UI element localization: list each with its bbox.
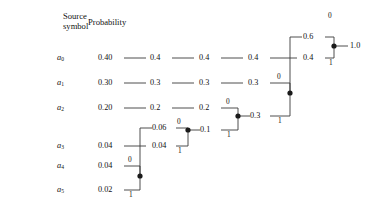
reduction1-value-0: 0.4 (150, 54, 160, 62)
bit-06-zero: 0 (328, 12, 332, 19)
reduction3-value-1: 0.3 (248, 79, 258, 87)
carry-006 (140, 128, 152, 176)
reduction4-value-06: 0.6 (303, 33, 313, 41)
node-merge-02-01 (235, 113, 240, 118)
branch-02-zero (221, 108, 238, 116)
bit-02-zero: 0 (226, 98, 230, 105)
header-source-symbol-line1: Source (63, 12, 87, 21)
huffman-tree-figure: Source symbol Probability a0 a1 a2 a3 a4… (0, 0, 382, 220)
bit-a5-one: 1 (129, 191, 133, 198)
probability-a1: 0.30 (98, 79, 112, 87)
reduction2-value-01: 0.1 (200, 126, 210, 134)
branch-004-one (176, 130, 188, 146)
reduction2-value-0: 0.4 (199, 54, 209, 62)
bit-03merge-one: 1 (278, 117, 282, 124)
reduction1-value-2: 0.2 (150, 104, 160, 112)
bit-01-one: 1 (227, 131, 231, 138)
probability-a0: 0.40 (98, 54, 112, 62)
branch-03row-zero (270, 83, 290, 93)
carry-06 (290, 37, 302, 93)
probability-a4: 0.04 (98, 162, 112, 170)
branch-03merge-one (270, 93, 290, 116)
bit-03row-zero: 0 (277, 73, 281, 80)
branch-01-one (221, 116, 238, 130)
symbol-a1-sub: 1 (61, 81, 64, 87)
bit-a4-zero: 0 (128, 156, 132, 163)
symbol-a2: a2 (57, 104, 64, 113)
bit-004-one: 1 (178, 147, 182, 154)
symbol-a4-sub: 4 (61, 164, 64, 170)
node-merge-006-004 (185, 127, 190, 132)
reduction1-value-006: 0.06 (152, 124, 166, 132)
header-source-symbol-line2: symbol (63, 22, 88, 31)
symbol-a0: a0 (57, 54, 64, 63)
header-probability: Probability (88, 18, 126, 27)
symbol-a0-sub: 0 (61, 56, 64, 62)
probability-a3: 0.04 (98, 142, 112, 150)
symbol-a5-sub: 5 (61, 188, 64, 194)
root-value: 1.0 (350, 42, 360, 50)
symbol-a4: a4 (57, 162, 64, 171)
reduction2-value-2: 0.2 (199, 104, 209, 112)
reduction1-value-1: 0.3 (150, 79, 160, 87)
reduction4-value-04: 0.4 (303, 54, 313, 62)
reduction3-value-0: 0.4 (248, 54, 258, 62)
branch-a4-zero (124, 166, 140, 176)
bit-04-one: 1 (329, 59, 333, 66)
reduction3-value-03: 0.3 (250, 112, 260, 120)
node-root (331, 43, 336, 48)
reduction1-value-004: 0.04 (152, 142, 166, 150)
reduction2-value-1: 0.3 (199, 79, 209, 87)
node-merge-a4-a5 (137, 173, 142, 178)
probability-a2: 0.20 (98, 104, 112, 112)
symbol-a3: a3 (57, 142, 64, 151)
node-merge-03-03 (287, 90, 292, 95)
symbol-a1: a1 (57, 79, 64, 88)
branch-a5-one (124, 176, 140, 190)
symbol-a2-sub: 2 (61, 106, 64, 112)
symbol-a5: a5 (57, 186, 64, 195)
bit-006-zero: 0 (177, 118, 181, 125)
probability-a5: 0.02 (98, 186, 112, 194)
symbol-a3-sub: 3 (61, 144, 64, 150)
